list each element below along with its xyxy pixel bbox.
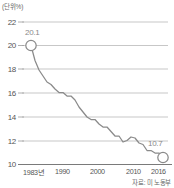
- source-note: 자료: 미 노동부: [132, 178, 171, 187]
- x-tick-label-1983: 1983년: [23, 167, 45, 177]
- data-label-start: 20.1: [25, 28, 39, 37]
- x-tick-label-2000: 2000: [90, 167, 105, 176]
- gridlines: [22, 22, 168, 141]
- x-tick-label-2016: 2016: [151, 167, 166, 176]
- y-tick-marks: [18, 22, 24, 141]
- data-label-end: 10.7: [148, 139, 162, 148]
- end-point-marker: [158, 152, 168, 162]
- x-tick-label-1990: 1990: [55, 167, 70, 176]
- unemployment-rate-line-chart: (단위%) 22 20 18 16 14 12 10 20.1 10.: [0, 0, 174, 188]
- x-tick-label-2010: 2010: [126, 167, 141, 176]
- start-point-marker: [26, 40, 36, 50]
